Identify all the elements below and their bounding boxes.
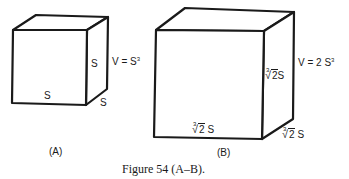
panel-b-label: (B) [217,148,230,158]
cube-a-depth-label: S [100,98,107,108]
cube-a-volume-label: V = S3 [112,56,140,67]
figure-caption: Figure 54 (A–B). [122,163,205,175]
cube-b-front-face [154,30,264,139]
cube-a-bottom-label: S [44,91,51,101]
panel-a-label: (A) [49,147,62,157]
cube-root-symbol: 3√2 [192,124,205,135]
cube-root-symbol: 3√2 [265,70,278,81]
figure: V = S3 S S S (A) V = 2 S3 3√2S 3√2 S 3√2… [0,0,349,179]
cube-b-volume-label: V = 2 S3 [298,57,334,68]
cube-b-depth-label: 3√2 S [282,129,304,140]
cube-a-height-label: S [91,59,98,69]
cube-root-symbol: 3√2 [282,129,295,140]
cube-b-bottom-label: 3√2 S [192,124,214,135]
cube-b-height-label: 3√2S [265,70,284,81]
